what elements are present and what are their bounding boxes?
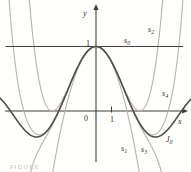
label-s3-subscript: 3: [143, 149, 147, 155]
label-s4: s4: [162, 89, 168, 99]
label-J0: J0: [166, 135, 173, 145]
figure-bessel-taylor: y1s0s2s401xs1s3J0 FIGURE: [0, 0, 191, 172]
label-J0-subscript: 0: [170, 139, 173, 145]
label-origin: 0: [84, 114, 88, 123]
label-s1: s1: [121, 144, 127, 154]
label-s2-subscript: 2: [151, 29, 154, 35]
label-y-axis-label: y: [82, 9, 87, 18]
label-s4-subscript: 4: [165, 93, 168, 99]
label-s3: s3: [141, 145, 147, 155]
bessel-taylor-plot: y1s0s2s401xs1s3J0: [0, 0, 191, 172]
label-x-axis-label: x: [177, 117, 182, 126]
label-y-tick-1: 1: [86, 39, 90, 48]
label-s0: s0: [124, 36, 130, 46]
cropped-figure-caption: FIGURE: [10, 164, 88, 171]
label-s1-subscript: 1: [124, 148, 127, 154]
y-axis-arrow: [93, 4, 98, 10]
label-x-tick-1: 1: [110, 115, 114, 124]
label-s2: s2: [148, 25, 154, 35]
label-s0-subscript: 0: [127, 40, 130, 46]
